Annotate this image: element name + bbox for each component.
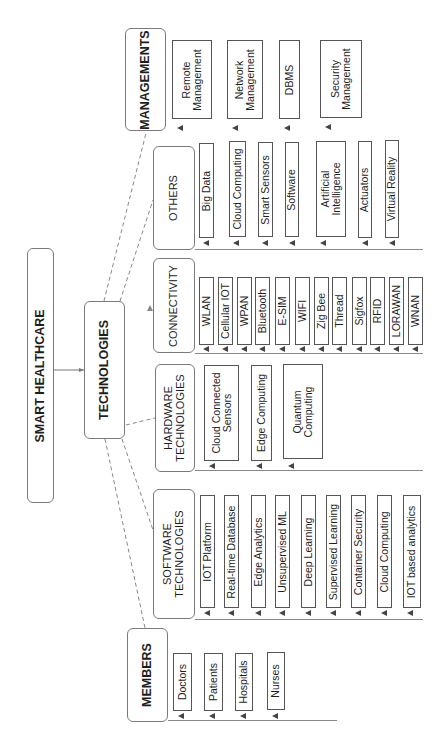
others-item-label: Software: [286, 169, 297, 210]
others-item-label: Actuators: [359, 167, 370, 211]
member-item: Hospitals: [235, 653, 253, 711]
arrow-icon: [209, 463, 215, 469]
arrow-icon: [228, 610, 234, 616]
arrow-icon: [325, 124, 331, 130]
others-node: OTHERS: [153, 146, 195, 250]
arrow-icon: [289, 240, 295, 246]
connectivity-item-label: Zig Bee: [316, 293, 327, 329]
arrow-icon: [241, 346, 247, 352]
connectivity-item: LORAWAN: [389, 277, 404, 345]
arrow-icon: [272, 713, 278, 719]
connectivity-item-label: Cellular IOT: [220, 283, 231, 339]
connectivity-item-label: RFID: [372, 299, 383, 324]
hardware-item: Edge Computing: [251, 365, 272, 461]
arrow-icon: [374, 346, 380, 352]
arrow-icon: [203, 240, 209, 246]
software-item: Supervised Learning: [326, 495, 341, 608]
software-item-label: Container Security: [353, 508, 364, 594]
management-item-label: NetworkManagement: [234, 49, 257, 110]
member-item-label: Patients: [208, 663, 219, 701]
others-item: Cloud Computing: [229, 141, 246, 237]
member-item-label: Doctors: [177, 664, 188, 700]
arrow-icon: [318, 346, 324, 352]
connectivity-item: Zig Bee: [314, 277, 329, 345]
others-item-label: Smart Sensors: [260, 155, 271, 224]
arrow-icon: [203, 346, 209, 352]
member-item: Doctors: [173, 653, 192, 711]
arrow-icon: [233, 240, 239, 246]
management-item-label: RemoteManagement: [181, 49, 204, 110]
arrow-icon: [279, 610, 285, 616]
connectivity-item: WIFI: [295, 277, 310, 345]
software-node-label: SOFTWARETECHNOLOGIES: [162, 510, 186, 597]
others-baseline: [195, 249, 423, 250]
member-item-label: Hospitals: [238, 660, 249, 703]
connectivity-item-label: WIFI: [297, 300, 308, 322]
arrow-icon: [279, 346, 285, 352]
managements-node: MANAGEMENTS: [125, 28, 166, 131]
software-item-label: Real-time Database: [226, 505, 237, 598]
arrow-icon: [305, 610, 311, 616]
software-item: Deep Learning: [301, 495, 316, 608]
managements-node-label: MANAGEMENTS: [139, 30, 153, 129]
arrow-icon: [240, 713, 246, 719]
management-item: RemoteManagement: [172, 40, 212, 119]
others-item-label: ArtificialIntelligence: [320, 162, 343, 215]
arrow-icon: [178, 713, 184, 719]
connectivity-item-label: LORAWAN: [391, 285, 402, 337]
software-item: Edge Analytics: [251, 495, 266, 608]
arrow-icon: [336, 346, 342, 352]
arrow-icon: [256, 463, 262, 469]
member-item: Patients: [204, 653, 223, 711]
software-item: Cloud Computing: [377, 495, 392, 608]
others-item-label: Virtual Reality: [386, 157, 397, 222]
arrow-icon: [355, 610, 361, 616]
connectivity-item-label: WNAN: [410, 295, 421, 327]
arrow-icon: [259, 346, 265, 352]
connectivity-baseline: [195, 353, 423, 354]
others-item-label: Cloud Computing: [232, 148, 243, 229]
management-item-label: DBMS: [284, 64, 295, 94]
connectivity-item-label: E-SIM: [277, 296, 288, 325]
software-item: Container Security: [351, 495, 366, 608]
software-item: Unsupervised ML: [275, 495, 290, 608]
connectivity-item: Thread: [332, 277, 347, 345]
arrow-icon: [209, 713, 215, 719]
connectivity-item: WLAN: [199, 277, 214, 345]
others-item: Actuators: [358, 141, 372, 238]
connectivity-item-label: WPAN: [239, 296, 250, 327]
connectivity-item: Bluetooth: [255, 277, 270, 345]
software-item: IOT Platform: [200, 495, 215, 608]
connectivity-item: E-SIM: [275, 277, 290, 345]
hardware-baseline: [195, 470, 423, 471]
member-item: Nurses: [267, 652, 285, 710]
hardware-item-label: Edge Computing: [256, 374, 267, 452]
software-item: IOT based analytics: [403, 495, 421, 608]
others-node-label: OTHERS: [168, 175, 180, 221]
arrow-icon: [407, 610, 413, 616]
members-baseline: [168, 720, 337, 721]
software-node: SOFTWARETECHNOLOGIES: [153, 489, 195, 619]
arrow-icon: [255, 610, 261, 616]
software-item: Real-time Database: [224, 495, 239, 608]
arrow-icon: [412, 346, 418, 352]
smart-healthcare-node: SMART HEALTHCARE: [27, 248, 54, 503]
connectivity-node-label: CONNECTIVITY: [168, 265, 180, 347]
arrow-icon: [320, 240, 326, 246]
arrow-icon: [222, 346, 228, 352]
arrow-icon: [330, 610, 336, 616]
software-item-label: Supervised Learning: [328, 503, 339, 599]
management-item-label: SecurityManagement: [330, 48, 353, 109]
hardware-item: QuantumComputing: [283, 364, 323, 459]
arrow-icon: [299, 346, 305, 352]
arrow-icon: [362, 240, 368, 246]
arrow-icon: [389, 240, 395, 246]
others-item: ArtificialIntelligence: [316, 141, 346, 237]
software-item-label: Edge Analytics: [253, 517, 264, 586]
connectivity-item: RFID: [370, 277, 385, 345]
connectivity-item: Cellular IOT: [218, 277, 233, 345]
connectivity-item: Sigfox: [352, 277, 367, 345]
software-item-label: IOT based analytics: [406, 505, 417, 598]
hardware-item: Cloud ConnectedSensors: [204, 365, 239, 461]
others-item: Software: [285, 142, 299, 237]
